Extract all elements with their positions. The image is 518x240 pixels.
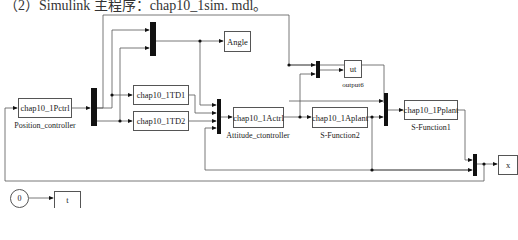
block-t-text: t: [66, 195, 68, 205]
block-x-text: x: [506, 160, 510, 170]
block-td2-text: chap10_1TD2: [137, 116, 186, 126]
block-ut[interactable]: ut: [344, 60, 362, 78]
label-position-controller: Position_controller: [14, 121, 75, 130]
mux-angle[interactable]: [150, 22, 156, 56]
label-s-function1: S-Function1: [411, 123, 451, 132]
label-output6: output6: [342, 81, 363, 89]
label-attitude-controller: Attitude_ctontroller: [226, 131, 290, 140]
mux-pplant[interactable]: [384, 93, 388, 126]
block-td1[interactable]: chap10_1TD1: [133, 85, 189, 105]
block-pplant[interactable]: chap10_1Pplant: [404, 100, 458, 120]
block-clock-constant[interactable]: 0: [10, 189, 29, 208]
block-td2[interactable]: chap10_1TD2: [133, 111, 189, 131]
block-actrl-text: chap10_1Actrl: [233, 113, 284, 123]
label-s-function2: S-Function2: [320, 131, 360, 140]
mux-x[interactable]: [473, 154, 477, 176]
block-t[interactable]: t: [54, 191, 81, 208]
block-actrl[interactable]: chap10_1Actrl: [233, 107, 284, 128]
block-ut-text: ut: [350, 64, 357, 74]
mux-ut[interactable]: [316, 61, 320, 78]
mux-position[interactable]: [91, 88, 97, 126]
block-pctrl[interactable]: chap10_1Pctrl: [18, 98, 72, 118]
block-x[interactable]: x: [498, 155, 518, 175]
block-pctrl-text: chap10_1Pctrl: [20, 103, 69, 113]
block-aplant[interactable]: chap10_1Aplant: [312, 107, 368, 128]
mux-attitude[interactable]: [217, 99, 221, 134]
block-td1-text: chap10_1TD1: [137, 90, 186, 100]
block-const-text: 0: [18, 194, 22, 203]
block-pplant-text: chap10_1Pplant: [404, 105, 459, 115]
block-aplant-text: chap10_1Aplant: [312, 113, 368, 123]
scope-angle-text: Angle: [227, 37, 248, 47]
scope-angle[interactable]: Angle: [224, 31, 251, 52]
